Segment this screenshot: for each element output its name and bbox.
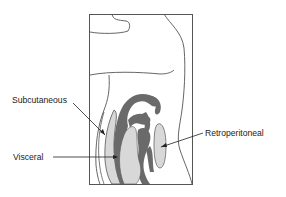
retroperitoneal-leader xyxy=(161,133,203,147)
label-retroperitoneal: Retroperitoneal xyxy=(205,129,264,138)
subcutaneous-arrowhead xyxy=(100,129,105,135)
label-subcutaneous: Subcutaneous xyxy=(12,96,67,105)
intestine-strand-2 xyxy=(146,146,154,172)
back-outline xyxy=(164,14,192,184)
arm-outline xyxy=(90,14,130,33)
forearm-outline xyxy=(90,70,174,75)
label-visceral: Visceral xyxy=(13,153,43,162)
